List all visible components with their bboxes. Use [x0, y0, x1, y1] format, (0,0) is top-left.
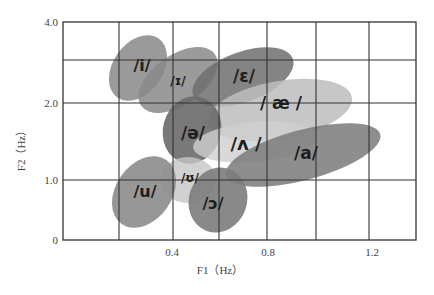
- y-tick-2-0: 2.0: [44, 97, 58, 109]
- vowel-label-vowel-7: /ʊ/: [181, 171, 200, 185]
- vowel-label-vowel-5: /ʌ /: [230, 133, 262, 154]
- vowel-label-vowel-9: /ɔ/: [202, 194, 223, 213]
- y-tick-0: 0: [53, 234, 59, 246]
- vowel-label-vowel-2: /ɛ/: [233, 66, 256, 86]
- x-axis-title: F1（Hz）: [197, 264, 243, 276]
- x-tick-0-8: 0.8: [261, 246, 275, 258]
- vowel-formant-chart: /i//ɪ//ɛ// æ //ə//ʌ //a//ʊ//u//ɔ/ 4.0 2.…: [0, 0, 434, 295]
- vowel-label-vowel-1: /ɪ/: [170, 74, 186, 88]
- y-tick-4-0: 4.0: [44, 16, 58, 28]
- x-tick-1-2: 1.2: [365, 246, 379, 258]
- vowel-label-vowel-0: /i/: [133, 56, 150, 75]
- x-tick-0-4: 0.4: [165, 246, 179, 258]
- vowel-label-vowel-3: / æ /: [260, 93, 303, 113]
- y-axis-title: F2（Hz）: [15, 125, 27, 171]
- vowel-label-vowel-6: /a/: [294, 143, 319, 163]
- vowel-label-vowel-4: /ə/: [181, 123, 206, 143]
- vowel-label-vowel-8: /u/: [133, 182, 156, 201]
- y-tick-1-0: 1.0: [44, 174, 58, 186]
